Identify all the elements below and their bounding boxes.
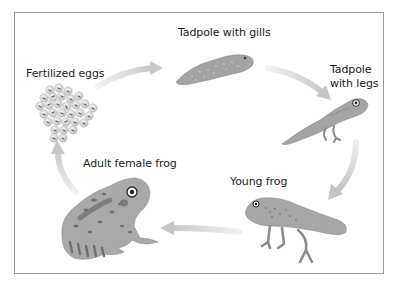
life-cycle-artwork xyxy=(0,0,395,290)
arrow-legs-to-young-frog xyxy=(328,142,356,200)
arrow-eggs-to-tadpole xyxy=(98,61,163,86)
label-fertilized-eggs: Fertilized eggs xyxy=(26,67,104,81)
arrow-tadpole-to-legs xyxy=(268,68,331,100)
label-tadpole-with-gills: Tadpole with gills xyxy=(178,26,271,40)
arrow-adult-to-eggs xyxy=(51,140,76,192)
egg-cluster-icon xyxy=(36,84,97,142)
label-adult-female-frog: Adult female frog xyxy=(83,157,177,171)
label-tadpole-with-legs-line2: with legs xyxy=(330,77,378,91)
label-tadpole-with-legs-line1: Tadpole xyxy=(330,63,371,77)
arrow-young-to-adult xyxy=(160,221,240,235)
tadpole-with-legs-icon xyxy=(282,99,368,145)
young-frog-icon xyxy=(246,198,347,262)
label-young-frog: Young frog xyxy=(230,175,287,189)
tadpole-icon xyxy=(176,55,253,85)
